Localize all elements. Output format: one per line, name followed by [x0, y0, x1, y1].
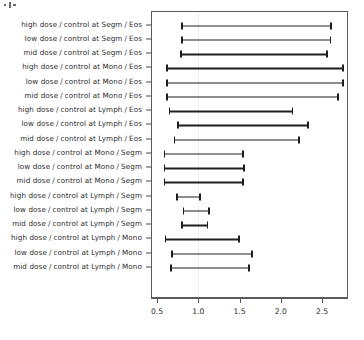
label-contrast: control at Lymph	[53, 233, 115, 242]
label-contrast: control at Mono	[57, 162, 115, 171]
label-dose: mid dose	[16, 176, 50, 185]
interval-line	[183, 210, 210, 212]
confidence-interval-bar	[181, 222, 208, 229]
category-label: low dose/control at Segm/Eos	[25, 35, 142, 43]
label-outcome: Mono	[122, 248, 142, 257]
interval-line	[169, 111, 294, 113]
confidence-interval-bar	[174, 136, 300, 143]
category-label: mid dose/control at Mono/Segm	[16, 177, 142, 185]
label-contrast: control at Lymph	[60, 134, 122, 143]
interval-line	[171, 253, 253, 255]
label-outcome: Eos	[129, 91, 142, 100]
confidence-interval-bar	[164, 179, 244, 186]
category-label: high dose/control at Lymph/Mono	[11, 234, 142, 242]
confidence-interval-bar	[164, 165, 245, 172]
category-label: low dose/control at Lymph/Segm	[13, 206, 142, 214]
interval-upper-cap	[208, 207, 210, 214]
category-label: low dose/control at Mono/Segm	[18, 163, 142, 171]
label-dose: low dose	[18, 162, 50, 171]
interval-line	[165, 239, 240, 241]
label-contrast: control at Segm	[64, 34, 123, 43]
category-label: low dose/control at Mono/Eos	[26, 78, 142, 86]
label-dose: high dose	[18, 105, 54, 114]
label-outcome: Segm	[121, 162, 142, 171]
x-axis-tick	[157, 298, 158, 303]
label-contrast: control at Lymph	[60, 105, 122, 114]
label-outcome: Segm	[121, 205, 142, 214]
category-label: high dose/control at Mono/Segm	[14, 149, 142, 157]
label-dose: low dose	[14, 248, 46, 257]
label-dose: mid dose	[13, 262, 47, 271]
interval-line	[181, 225, 208, 227]
confidence-interval-bar	[169, 108, 294, 115]
label-dose: low dose	[25, 34, 57, 43]
confidence-interval-bar	[171, 250, 253, 257]
x-axis-tick	[198, 298, 199, 303]
label-outcome: Eos	[129, 119, 142, 128]
label-dose: high dose	[21, 20, 57, 29]
confidence-interval-bar	[165, 236, 240, 243]
label-contrast: control at Lymph	[60, 119, 122, 128]
interval-line	[166, 68, 343, 70]
label-outcome: Eos	[129, 20, 142, 29]
label-contrast: control at Segm	[64, 48, 123, 57]
interval-line	[164, 182, 244, 184]
interval-upper-cap	[342, 79, 344, 86]
confidence-interval-bar	[166, 65, 343, 72]
label-contrast: control at Mono	[65, 91, 123, 100]
category-label: mid dose/control at Mono/Eos	[24, 92, 142, 100]
interval-upper-cap	[326, 51, 328, 58]
forest-plot-figure: high dose/control at Segm/Eoslow dose/co…	[0, 0, 364, 340]
category-label: mid dose/control at Lymph/Eos	[20, 135, 142, 143]
interval-line	[174, 139, 300, 141]
label-outcome: Eos	[129, 48, 142, 57]
label-dose: low dose	[13, 205, 45, 214]
label-dose: high dose	[22, 62, 58, 71]
x-axis-tick-label: 2.5	[316, 307, 328, 316]
label-outcome: Mono	[122, 262, 142, 271]
label-outcome: Mono	[122, 233, 142, 242]
category-labels-column: high dose/control at Segm/Eoslow dose/co…	[0, 0, 148, 340]
label-dose: low dose	[26, 77, 58, 86]
category-label: high dose/control at Lymph/Eos	[18, 106, 142, 114]
label-outcome: Eos	[129, 34, 142, 43]
interval-line	[176, 196, 201, 198]
confidence-interval-bar	[176, 193, 201, 200]
label-dose: high dose	[14, 148, 50, 157]
interval-line	[164, 153, 244, 155]
interval-upper-cap	[242, 150, 244, 157]
label-contrast: control at Mono	[65, 77, 123, 86]
label-outcome: Eos	[129, 105, 142, 114]
label-outcome: Eos	[129, 62, 142, 71]
label-contrast: control at Lymph	[53, 248, 115, 257]
category-label: high dose/control at Mono/Eos	[22, 63, 142, 71]
label-contrast: control at Segm	[64, 20, 123, 29]
x-axis-tick	[281, 298, 282, 303]
interval-line	[177, 125, 309, 127]
interval-line	[170, 267, 249, 269]
category-label: mid dose/control at Segm/Eos	[23, 49, 142, 57]
category-label: high dose/control at Segm/Eos	[21, 21, 142, 29]
label-dose: high dose	[11, 233, 47, 242]
interval-line	[166, 96, 338, 98]
interval-upper-cap	[330, 22, 332, 29]
x-axis-tick-label: 2.0	[275, 307, 287, 316]
label-outcome: Segm	[121, 148, 142, 157]
x-axis-tick-label: 1.5	[233, 307, 245, 316]
label-contrast: control at Mono	[57, 148, 115, 157]
x-axis-line	[151, 298, 348, 299]
x-axis: 0.51.01.52.02.5	[151, 298, 348, 299]
label-dose: mid dose	[12, 219, 46, 228]
x-axis-tick-label: 1.0	[192, 307, 204, 316]
interval-upper-cap	[298, 136, 300, 143]
interval-upper-cap	[292, 108, 294, 115]
confidence-interval-bar	[170, 264, 249, 271]
category-label: low dose/control at Lymph/Mono	[14, 249, 142, 257]
label-dose: mid dose	[20, 134, 54, 143]
category-label: low dose/control at Lymph/Eos	[21, 120, 142, 128]
category-label: mid dose/control at Lymph/Segm	[12, 220, 142, 228]
interval-upper-cap	[337, 93, 339, 100]
label-contrast: control at Lymph	[52, 191, 114, 200]
x-axis-tick	[240, 298, 241, 303]
confidence-interval-bar	[166, 93, 338, 100]
